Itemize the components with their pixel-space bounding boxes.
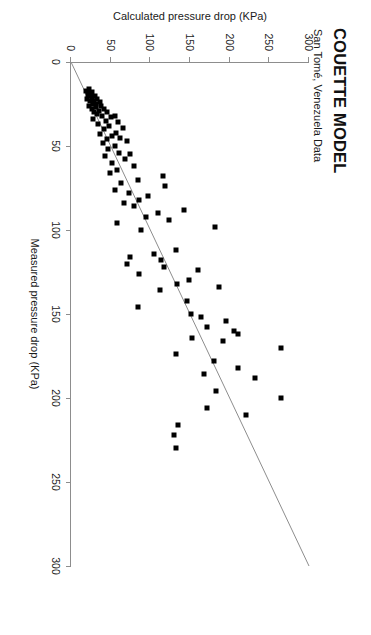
data-point <box>152 251 157 256</box>
data-point <box>205 325 210 330</box>
x-tick-mark <box>66 230 71 231</box>
data-point <box>115 120 120 125</box>
y-tick-label: 300 <box>303 33 315 51</box>
data-point <box>236 365 241 370</box>
y-tick-label: 250 <box>263 33 275 51</box>
data-point <box>112 144 117 149</box>
x-tick-label: 100 <box>50 221 62 239</box>
data-point <box>125 138 130 143</box>
x-tick-mark <box>66 398 71 399</box>
data-point <box>110 133 115 138</box>
data-point <box>202 372 207 377</box>
x-tick-label: 250 <box>50 473 62 491</box>
data-point <box>97 132 102 137</box>
data-point <box>157 288 162 293</box>
data-point <box>220 338 225 343</box>
y-tick-mark <box>308 57 309 62</box>
y-tick-mark <box>110 57 111 62</box>
data-point <box>135 177 140 182</box>
data-point <box>173 248 178 253</box>
data-point <box>172 432 177 437</box>
data-point <box>95 122 100 127</box>
data-point <box>189 335 194 340</box>
data-point <box>128 152 133 157</box>
y-tick-label: 200 <box>224 33 236 51</box>
x-tick-label: 150 <box>50 305 62 323</box>
data-point <box>253 375 258 380</box>
data-point <box>173 352 178 357</box>
data-point <box>236 332 241 337</box>
data-point <box>279 345 284 350</box>
data-point <box>213 224 218 229</box>
data-point <box>161 264 166 269</box>
x-tick-mark <box>66 566 71 567</box>
x-tick-mark <box>66 314 71 315</box>
scatter-plot-figure: COUETTE MODEL San Tomé, Venezuela Data 0… <box>0 0 371 635</box>
data-point <box>211 359 216 364</box>
data-point <box>103 154 108 159</box>
data-point <box>162 184 167 189</box>
data-point <box>110 160 115 165</box>
chart-title: COUETTE MODEL <box>330 28 349 174</box>
data-point <box>195 268 200 273</box>
x-tick-mark <box>66 482 71 483</box>
data-point <box>184 298 189 303</box>
data-point <box>243 412 248 417</box>
data-point <box>116 150 121 155</box>
data-point <box>112 187 117 192</box>
data-point <box>224 318 229 323</box>
data-point <box>118 135 123 140</box>
y-tick-label: 0 <box>65 45 77 51</box>
y-tick-label: 150 <box>184 33 196 51</box>
data-point <box>187 278 192 283</box>
data-point <box>108 115 113 120</box>
data-point <box>135 305 140 310</box>
y-tick-label: 100 <box>144 33 156 51</box>
data-point <box>115 221 120 226</box>
x-axis-title: Measured pressure drop (KPa) <box>29 238 41 389</box>
data-point <box>107 170 112 175</box>
data-point <box>107 123 112 128</box>
data-point <box>128 254 133 259</box>
data-point <box>121 125 126 130</box>
data-point <box>122 157 127 162</box>
data-point <box>145 194 150 199</box>
data-point <box>216 285 221 290</box>
y-tick-label: 50 <box>105 39 117 51</box>
y-tick-mark <box>268 57 269 62</box>
data-point <box>137 271 142 276</box>
data-point <box>166 217 171 222</box>
y-tick-mark <box>229 57 230 62</box>
plot-area: 050100150200250300 050100150200250300 Me… <box>71 62 309 566</box>
data-point <box>158 258 163 263</box>
y-tick-mark <box>189 57 190 62</box>
rotated-figure-stage: COUETTE MODEL San Tomé, Venezuela Data 0… <box>0 0 371 635</box>
x-tick-label: 300 <box>50 557 62 575</box>
y-axis-title: Calculated pressure drop (KPa) <box>113 10 267 22</box>
x-tick-label: 50 <box>50 140 62 152</box>
data-point <box>161 174 166 179</box>
data-point <box>156 211 161 216</box>
data-point <box>176 422 181 427</box>
x-tick-label: 200 <box>50 389 62 407</box>
data-point <box>131 204 136 209</box>
data-point <box>173 446 178 451</box>
data-point <box>205 406 210 411</box>
data-point <box>199 315 204 320</box>
x-tick-mark <box>66 146 71 147</box>
data-point <box>214 389 219 394</box>
data-point <box>182 207 187 212</box>
data-point <box>138 228 143 233</box>
data-point <box>137 197 142 202</box>
data-point <box>132 164 137 169</box>
data-point <box>115 167 120 172</box>
data-point <box>126 191 131 196</box>
data-point <box>118 180 123 185</box>
data-point <box>106 147 111 152</box>
y-tick-mark <box>149 57 150 62</box>
data-point <box>122 201 127 206</box>
data-point <box>175 281 180 286</box>
data-point <box>124 261 129 266</box>
y-tick-mark <box>70 57 71 62</box>
x-tick-mark <box>66 62 71 63</box>
